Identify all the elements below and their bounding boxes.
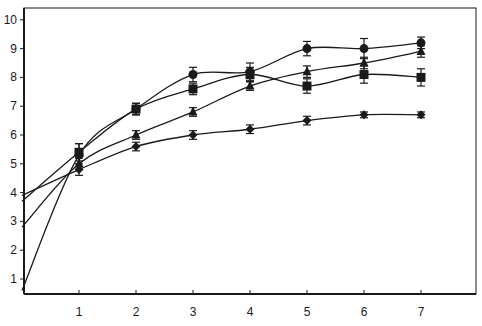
y-tick-label: 9 [10,42,17,56]
circle-marker [303,44,312,53]
square-marker [303,82,312,91]
square-marker [75,148,84,157]
y-tick-label: 1 [10,272,17,286]
x-tick-label: 2 [133,305,140,319]
x-tick-label: 4 [247,305,254,319]
square-marker [360,70,369,79]
x-tick-label: 3 [190,305,197,319]
x-tick-label: 7 [418,305,425,319]
plot-frame [24,8,476,294]
square-marker [189,84,198,93]
x-tick-label: 5 [304,305,311,319]
chart: 12345678910 1234567 [0,0,482,326]
x-tick-label: 6 [361,305,368,319]
y-tick-label: 5 [10,157,17,171]
square-marker [246,70,255,79]
circle-marker [189,70,198,79]
circle-marker [360,44,369,53]
y-tick-label: 8 [10,70,17,84]
y-tick-label: 3 [10,214,17,228]
square-marker [132,105,141,114]
square-marker [417,73,426,82]
y-tick-label: 2 [10,243,17,257]
y-tick-label: 10 [4,13,18,27]
y-axis-ticks: 12345678910 [4,13,24,286]
x-tick-label: 1 [76,305,83,319]
y-tick-label: 7 [10,99,17,113]
y-tick-label: 4 [10,186,17,200]
y-tick-label: 6 [10,128,17,142]
